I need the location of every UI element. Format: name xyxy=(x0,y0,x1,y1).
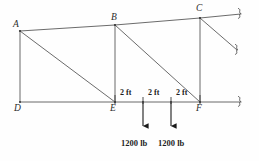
joint-dot-c xyxy=(199,17,201,19)
node-label-f: F xyxy=(196,104,202,114)
node-label-b: B xyxy=(111,13,117,23)
load-label-2: 1200 lb xyxy=(158,139,184,148)
load-arrows xyxy=(143,101,171,126)
member-top-chord-extension xyxy=(200,14,241,18)
node-label-a: A xyxy=(13,20,19,30)
member-diagonal-ae xyxy=(20,31,115,102)
node-label-c: C xyxy=(196,4,202,14)
dimension-label-2: 2 ft xyxy=(148,89,159,97)
dimension-label-1: 2 ft xyxy=(120,89,131,97)
joint-dot-a xyxy=(19,30,21,32)
member-top-chord-bc xyxy=(115,18,200,25)
truss-diagram-figure: A B C D E F 2 ft 2 ft 2 ft 1200 lb 1200 … xyxy=(0,0,259,161)
member-top-chord-ab xyxy=(20,25,115,31)
node-label-d: D xyxy=(14,104,21,114)
break-mark-top-icon xyxy=(239,9,241,19)
break-mark-bottom-icon xyxy=(239,97,241,107)
joint-dots xyxy=(19,17,201,103)
break-marks xyxy=(236,9,241,107)
joint-dot-b xyxy=(114,24,116,26)
load-label-1: 1200 lb xyxy=(121,139,147,148)
node-label-e: E xyxy=(110,104,116,114)
truss-drawing-canvas xyxy=(0,0,259,161)
member-diagonal-c-extension xyxy=(200,18,237,50)
dimension-label-3: 2 ft xyxy=(176,89,187,97)
